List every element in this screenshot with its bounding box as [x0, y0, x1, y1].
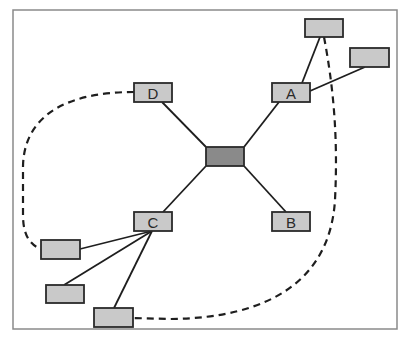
node-d-label: D	[148, 85, 159, 102]
node-c-label: C	[148, 214, 159, 231]
node-b[interactable]: B	[272, 212, 310, 231]
leaf-node-c2[interactable]	[46, 285, 84, 303]
leaf-c2-rect	[46, 285, 84, 303]
node-c[interactable]: C	[134, 212, 172, 231]
leaf-node-c3[interactable]	[94, 308, 133, 327]
leaf-c1-rect	[41, 240, 80, 259]
leaf-a2-rect	[350, 48, 389, 67]
node-a[interactable]: A	[272, 83, 310, 102]
node-d[interactable]: D	[134, 83, 172, 102]
hub-rect	[206, 147, 244, 166]
leaf-a1-rect	[305, 19, 343, 37]
leaf-node-a1[interactable]	[305, 19, 343, 37]
leaf-c3-rect	[94, 308, 133, 327]
hub-node[interactable]	[206, 147, 244, 166]
node-b-label: B	[286, 214, 296, 231]
leaf-node-c1[interactable]	[41, 240, 80, 259]
node-a-label: A	[286, 85, 296, 102]
leaf-node-a2[interactable]	[350, 48, 389, 67]
network-diagram: A B C D	[0, 0, 412, 344]
